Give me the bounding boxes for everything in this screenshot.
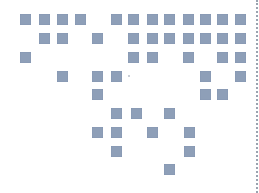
- grid-square: [131, 108, 142, 119]
- grid-square: [235, 33, 246, 44]
- grid-square: [147, 127, 158, 138]
- grid-square: [57, 33, 68, 44]
- grid-square: [235, 52, 246, 63]
- dotted-divider-line: [256, 0, 258, 193]
- grid-square: [235, 14, 246, 25]
- grid-square: [92, 89, 103, 100]
- grid-square: [147, 52, 158, 63]
- grid-square: [200, 71, 211, 82]
- grid-square: [92, 71, 103, 82]
- grid-square: [183, 33, 194, 44]
- grid-square: [164, 164, 175, 175]
- grid-square: [20, 14, 31, 25]
- stray-dot-mark: [128, 75, 130, 77]
- grid-square: [217, 52, 228, 63]
- grid-square: [184, 146, 195, 157]
- grid-square: [128, 33, 139, 44]
- grid-square: [164, 108, 175, 119]
- grid-square: [111, 127, 122, 138]
- grid-square: [75, 14, 86, 25]
- grid-square: [111, 146, 122, 157]
- grid-square: [235, 71, 246, 82]
- grid-square: [147, 33, 158, 44]
- grid-square: [200, 33, 211, 44]
- grid-square: [184, 127, 195, 138]
- grid-square: [147, 14, 158, 25]
- square-pattern-canvas: [0, 0, 259, 193]
- grid-square: [111, 108, 122, 119]
- grid-square: [164, 33, 175, 44]
- grid-square: [92, 127, 103, 138]
- grid-square: [57, 71, 68, 82]
- grid-square: [39, 33, 50, 44]
- grid-square: [57, 14, 68, 25]
- grid-square: [217, 14, 228, 25]
- grid-square: [111, 14, 122, 25]
- grid-square: [200, 89, 211, 100]
- grid-square: [92, 33, 103, 44]
- grid-square: [128, 52, 139, 63]
- grid-square: [128, 14, 139, 25]
- grid-square: [111, 71, 122, 82]
- grid-square: [217, 33, 228, 44]
- grid-square: [183, 14, 194, 25]
- grid-square: [164, 14, 175, 25]
- grid-square: [39, 14, 50, 25]
- grid-square: [200, 14, 211, 25]
- grid-square: [20, 52, 31, 63]
- grid-square: [183, 52, 194, 63]
- grid-square: [217, 89, 228, 100]
